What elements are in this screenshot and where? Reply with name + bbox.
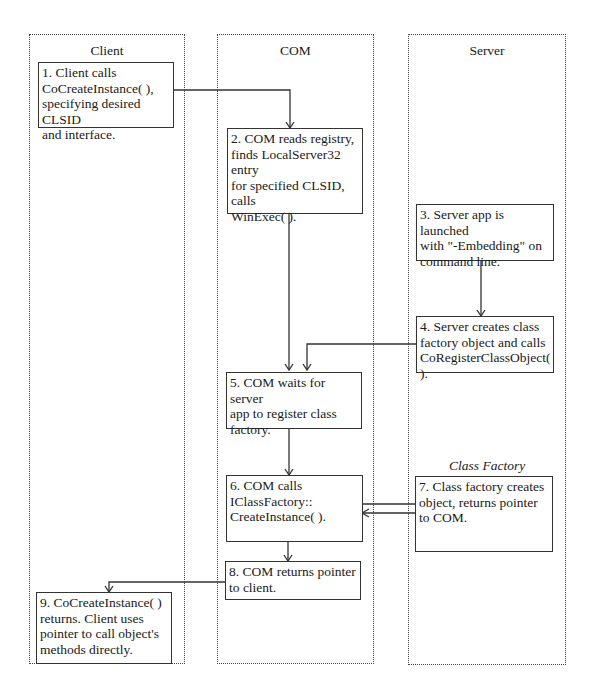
step-5-box: 5. COM waits for server app to register …: [226, 372, 362, 429]
step-2-box: 2. COM reads registry, finds LocalServer…: [227, 128, 363, 214]
lane-title-com: COM: [218, 43, 373, 59]
step-4-box: 4. Server creates class factory object a…: [416, 316, 554, 373]
step-3-box: 3. Server app is launched with "-Embeddi…: [416, 204, 554, 261]
lane-title-client: Client: [30, 43, 184, 59]
step-9-box: 9. CoCreateInstance( ) returns. Client u…: [36, 592, 172, 664]
step-1-box: 1. Client calls CoCreateInstance( ), spe…: [38, 62, 174, 128]
class-factory-caption: Class Factory: [449, 458, 525, 474]
step-8-box: 8. COM returns pointer to client.: [225, 561, 361, 600]
step-6-box: 6. COM calls IClassFactory:: CreateInsta…: [226, 475, 363, 542]
lane-title-server: Server: [409, 43, 565, 59]
step-7-box: 7. Class factory creates object, returns…: [415, 476, 553, 552]
